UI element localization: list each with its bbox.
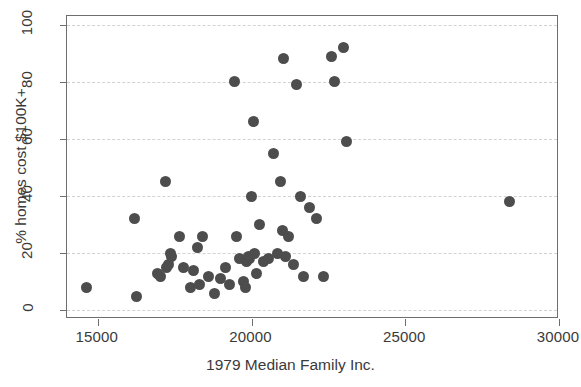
x-axis-title: 1979 Median Family Inc. bbox=[0, 356, 581, 374]
y-tick-label-0: 0 bbox=[0, 299, 54, 316]
data-point bbox=[197, 231, 208, 242]
data-point bbox=[220, 262, 231, 273]
y-axis-title: % homes cost $100K+ bbox=[12, 56, 30, 276]
data-point bbox=[229, 76, 240, 87]
data-point bbox=[275, 176, 286, 187]
y-tick-mark-80 bbox=[60, 82, 67, 83]
data-point bbox=[278, 53, 289, 64]
data-point bbox=[231, 231, 242, 242]
data-point bbox=[311, 213, 322, 224]
data-point bbox=[298, 271, 309, 282]
data-point bbox=[81, 282, 92, 293]
y-tick-mark-60 bbox=[60, 139, 67, 140]
gridline-y-40 bbox=[67, 196, 557, 197]
x-tick-mark-15000 bbox=[98, 319, 99, 326]
y-tick-label-100: 100 bbox=[0, 14, 54, 31]
data-point bbox=[288, 259, 299, 270]
data-point bbox=[129, 213, 140, 224]
data-point bbox=[248, 116, 259, 127]
data-point bbox=[251, 268, 262, 279]
gridline-y-100 bbox=[67, 25, 557, 26]
data-point bbox=[240, 282, 251, 293]
plot-area bbox=[66, 15, 558, 318]
y-tick-mark-20 bbox=[60, 253, 67, 254]
data-point bbox=[329, 76, 340, 87]
data-point bbox=[304, 202, 315, 213]
data-point bbox=[188, 265, 199, 276]
data-point bbox=[160, 176, 171, 187]
data-point bbox=[203, 271, 214, 282]
x-tick-mark-20000 bbox=[252, 319, 253, 326]
data-point bbox=[504, 196, 515, 207]
gridline-y-20 bbox=[67, 253, 557, 254]
data-point bbox=[295, 191, 306, 202]
data-point bbox=[224, 279, 235, 290]
scatter-plot-figure: 020406080100 15000200002500030000 1979 M… bbox=[0, 0, 581, 387]
data-point bbox=[194, 279, 205, 290]
gridline-y-60 bbox=[67, 139, 557, 140]
data-point bbox=[268, 148, 279, 159]
gridline-y-80 bbox=[67, 82, 557, 83]
data-point bbox=[326, 51, 337, 62]
data-point bbox=[131, 291, 142, 302]
x-tick-label-15000: 15000 bbox=[37, 328, 157, 345]
x-tick-label-30000: 30000 bbox=[498, 328, 581, 345]
data-point bbox=[283, 231, 294, 242]
x-tick-label-25000: 25000 bbox=[344, 328, 464, 345]
data-point bbox=[174, 231, 185, 242]
data-point bbox=[192, 242, 203, 253]
data-point bbox=[338, 42, 349, 53]
data-point bbox=[318, 271, 329, 282]
x-tick-mark-25000 bbox=[405, 319, 406, 326]
data-point bbox=[254, 219, 265, 230]
y-tick-mark-0 bbox=[60, 310, 67, 311]
gridline-y-0 bbox=[67, 310, 557, 311]
data-point bbox=[291, 79, 302, 90]
data-point bbox=[246, 191, 257, 202]
data-point bbox=[166, 251, 177, 262]
data-point bbox=[341, 136, 352, 147]
y-tick-mark-100 bbox=[60, 25, 67, 26]
x-tick-label-20000: 20000 bbox=[191, 328, 311, 345]
y-tick-mark-40 bbox=[60, 196, 67, 197]
data-point bbox=[209, 288, 220, 299]
x-tick-mark-30000 bbox=[559, 319, 560, 326]
